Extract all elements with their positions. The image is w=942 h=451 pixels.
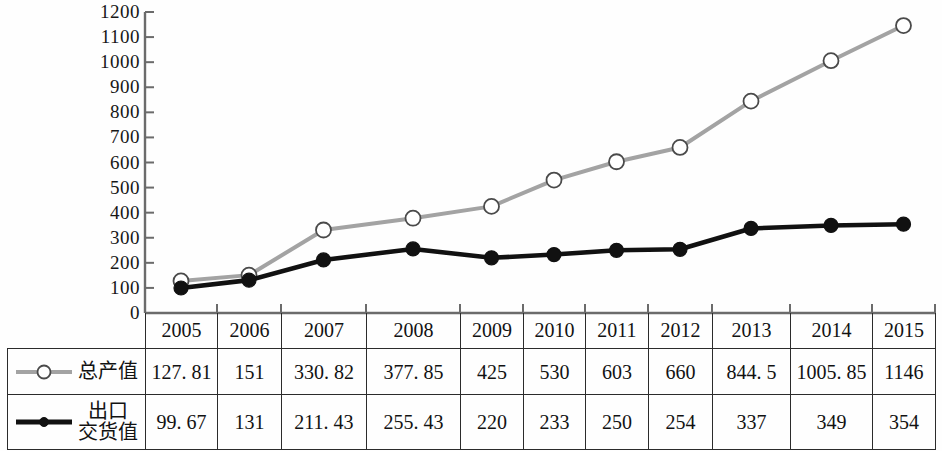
table-row: 出口 交货值99. 67131211. 43255. 4322023325025… xyxy=(8,395,936,450)
table-cell-value: 211. 43 xyxy=(282,395,367,450)
data-point-marker xyxy=(547,173,562,188)
table-row-legend-export-delivery: 出口 交货值 xyxy=(8,395,146,450)
table-header-year: 2013 xyxy=(713,313,791,349)
table-cell-value: 354 xyxy=(873,395,936,450)
table-header-year: 2015 xyxy=(873,313,936,349)
table-header-year: 2014 xyxy=(791,313,873,349)
table-cell-value: 127. 81 xyxy=(146,349,218,395)
data-point-marker xyxy=(485,251,499,265)
table-cell-value: 131 xyxy=(218,395,282,450)
table-header-year: 2007 xyxy=(282,313,367,349)
table-cell-value: 349 xyxy=(791,395,873,450)
table-cell-value: 1146 xyxy=(873,349,936,395)
data-point-marker xyxy=(610,243,624,257)
table-header-year: 2006 xyxy=(218,313,282,349)
data-point-marker xyxy=(897,217,911,231)
data-point-marker xyxy=(896,18,911,33)
legend-label: 总产值 xyxy=(74,361,145,382)
data-point-marker xyxy=(744,221,758,235)
table-cell-value: 530 xyxy=(524,349,586,395)
table-cell-value: 425 xyxy=(461,349,524,395)
chart-plot-area: 1200110010009008007006005004003002001000 xyxy=(0,0,942,320)
legend-marker xyxy=(14,412,74,432)
data-table: 2005200620072008200920102011201220132014… xyxy=(7,313,936,450)
table-cell-value: 255. 43 xyxy=(367,395,461,450)
table-cell-value: 1005. 85 xyxy=(791,349,873,395)
table-cell-value: 603 xyxy=(586,349,649,395)
data-point-marker xyxy=(316,223,331,238)
table-row: 总产值127. 81151330. 82377. 854255306036608… xyxy=(8,349,936,395)
table-cell-value: 254 xyxy=(649,395,713,450)
legend-marker xyxy=(14,362,74,382)
data-point-marker xyxy=(484,199,499,214)
data-point-marker xyxy=(744,94,759,109)
chart-figure: 1200110010009008007006005004003002001000… xyxy=(0,0,942,451)
table-header-year: 2009 xyxy=(461,313,524,349)
data-point-marker xyxy=(824,218,838,232)
data-point-marker xyxy=(547,248,561,262)
table-cell-value: 377. 85 xyxy=(367,349,461,395)
table-header-year: 2012 xyxy=(649,313,713,349)
legend-label: 出口 交货值 xyxy=(74,401,145,443)
table-header-row: 2005200620072008200920102011201220132014… xyxy=(8,313,936,349)
series-path xyxy=(181,224,904,288)
chart-svg xyxy=(0,0,942,320)
table-cell-value: 250 xyxy=(586,395,649,450)
table-header-year: 2008 xyxy=(367,313,461,349)
series-line-total-output xyxy=(174,18,912,288)
data-table-wrapper: 2005200620072008200920102011201220132014… xyxy=(7,313,935,451)
series-path xyxy=(181,26,904,281)
data-point-marker xyxy=(673,140,688,155)
legend-marker-open-circle xyxy=(14,362,74,382)
table-row-legend-total-output: 总产值 xyxy=(8,349,146,395)
table-header-year: 2005 xyxy=(146,313,218,349)
legend-marker-filled-circle xyxy=(14,412,74,432)
table-cell-value: 337 xyxy=(713,395,791,450)
table-corner-cell xyxy=(8,313,146,349)
table-header-year: 2010 xyxy=(524,313,586,349)
table-cell-value: 220 xyxy=(461,395,524,450)
data-point-marker xyxy=(242,273,256,287)
data-point-marker xyxy=(317,253,331,267)
y-axis-ticks xyxy=(145,12,154,313)
data-point-marker xyxy=(406,242,420,256)
table-cell-value: 844. 5 xyxy=(713,349,791,395)
table-cell-value: 330. 82 xyxy=(282,349,367,395)
x-axis-ticks xyxy=(217,304,935,313)
data-point-marker xyxy=(609,154,624,169)
data-point-marker xyxy=(406,211,421,226)
table-cell-value: 99. 67 xyxy=(146,395,218,450)
series-line-export-delivery xyxy=(174,217,911,295)
data-point-marker xyxy=(673,242,687,256)
table-header-year: 2011 xyxy=(586,313,649,349)
data-point-marker xyxy=(824,53,839,68)
table-cell-value: 151 xyxy=(218,349,282,395)
data-point-marker xyxy=(174,281,188,295)
table-cell-value: 660 xyxy=(649,349,713,395)
table-cell-value: 233 xyxy=(524,395,586,450)
